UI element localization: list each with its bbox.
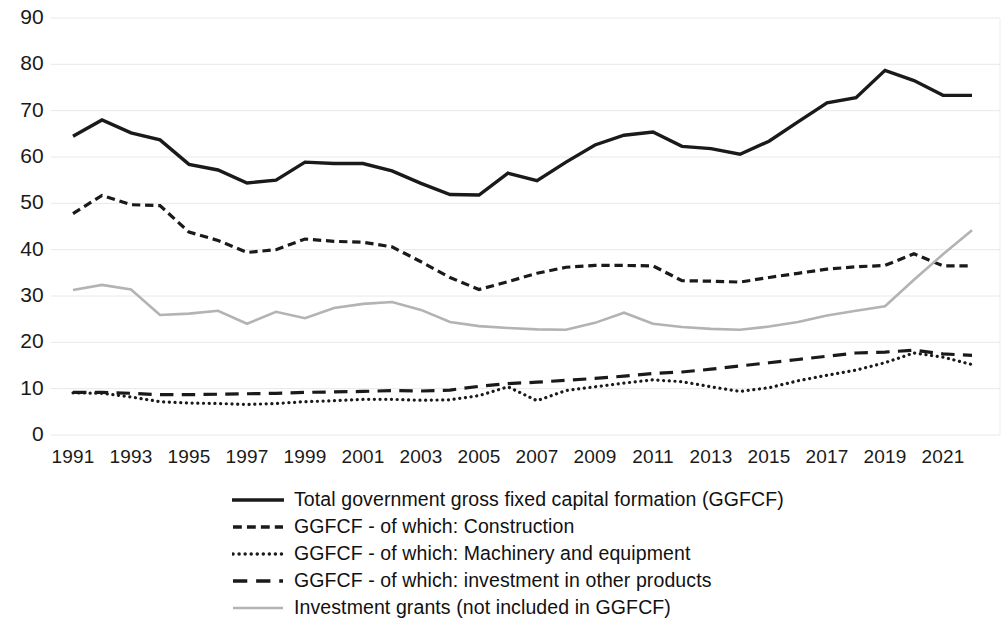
legend-label: GGFCF - of which: investment in other pr…	[294, 569, 712, 592]
legend-label: GGFCF - of which: Construction	[294, 515, 574, 538]
y-axis-tick-label: 30	[0, 283, 44, 307]
x-axis-tick-label: 2013	[681, 446, 741, 468]
y-axis-tick-label: 50	[0, 190, 44, 214]
x-axis-tick-label: 2017	[797, 446, 857, 468]
x-axis-tick-label: 2019	[855, 446, 915, 468]
x-axis-tick-label: 2005	[449, 446, 509, 468]
legend-item: GGFCF - of which: investment in other pr…	[232, 568, 932, 593]
y-axis-tick-label: 20	[0, 329, 44, 353]
legend-swatch-icon	[232, 573, 284, 589]
legend-swatch-icon	[232, 600, 284, 616]
series-line-1	[73, 195, 972, 289]
gridlines	[51, 18, 1000, 435]
x-axis-tick-label: 1993	[101, 446, 161, 468]
y-axis-tick-label: 90	[0, 5, 44, 29]
series-line-0	[73, 70, 972, 195]
legend-label: Total government gross fixed capital for…	[294, 488, 784, 511]
y-axis-tick-label: 80	[0, 51, 44, 75]
x-axis-tick-label: 1997	[217, 446, 277, 468]
x-axis-tick-label: 1995	[159, 446, 219, 468]
legend-swatch-icon	[232, 492, 284, 508]
series-line-2	[73, 353, 972, 404]
legend-item: GGFCF - of which: Machinery and equipmen…	[232, 541, 932, 566]
x-axis-tick-label: 2003	[391, 446, 451, 468]
legend-label: GGFCF - of which: Machinery and equipmen…	[294, 542, 690, 565]
chart-legend: Total government gross fixed capital for…	[232, 487, 932, 622]
y-axis-tick-label: 60	[0, 144, 44, 168]
legend-item: GGFCF - of which: Construction	[232, 514, 932, 539]
legend-item: Total government gross fixed capital for…	[232, 487, 932, 512]
y-axis-tick-label: 0	[0, 422, 44, 446]
legend-label: Investment grants (not included in GGFCF…	[294, 596, 671, 619]
series-line-4	[73, 230, 972, 330]
x-axis-tick-label: 2015	[739, 446, 799, 468]
y-axis-tick-label: 10	[0, 376, 44, 400]
x-axis-tick-label: 1999	[275, 446, 335, 468]
x-axis-tick-label: 2021	[913, 446, 973, 468]
legend-swatch-icon	[232, 546, 284, 562]
legend-item: Investment grants (not included in GGFCF…	[232, 595, 932, 620]
x-axis-tick-label: 1991	[43, 446, 103, 468]
y-axis-tick-label: 40	[0, 237, 44, 261]
x-axis-tick-label: 2009	[565, 446, 625, 468]
legend-swatch-icon	[232, 519, 284, 535]
x-axis-tick-label: 2007	[507, 446, 567, 468]
line-chart: 0102030405060708090 19911993199519971999…	[0, 0, 1005, 628]
x-axis-tick-label: 2011	[623, 446, 683, 468]
y-axis-tick-label: 70	[0, 98, 44, 122]
x-axis-tick-label: 2001	[333, 446, 393, 468]
